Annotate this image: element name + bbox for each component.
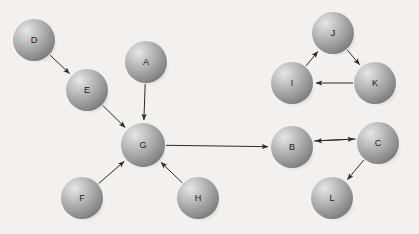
- node-sphere-b[interactable]: [271, 126, 313, 168]
- nodes-layer: DAEGFHJIKBCL: [13, 12, 401, 222]
- node-sphere-d[interactable]: [13, 19, 55, 61]
- edge-i-to-j: [306, 52, 318, 66]
- edge-g-to-b: [166, 145, 268, 146]
- node-k[interactable]: K: [354, 62, 398, 107]
- edge-e-to-g: [103, 105, 125, 127]
- node-l[interactable]: L: [311, 177, 355, 222]
- edges-layer: [50, 50, 364, 184]
- node-sphere-k[interactable]: [354, 62, 396, 104]
- node-g[interactable]: G: [121, 123, 167, 170]
- node-sphere-e[interactable]: [66, 69, 108, 111]
- node-sphere-g[interactable]: [121, 123, 165, 167]
- node-a[interactable]: A: [125, 41, 169, 86]
- edge-d-to-e: [50, 55, 70, 73]
- edge-c-to-b: [316, 139, 356, 141]
- node-i[interactable]: I: [271, 62, 315, 107]
- node-d[interactable]: D: [13, 19, 57, 64]
- node-e[interactable]: E: [66, 69, 110, 114]
- node-sphere-f[interactable]: [61, 177, 103, 219]
- node-sphere-c[interactable]: [357, 122, 399, 164]
- node-sphere-j[interactable]: [312, 12, 354, 54]
- node-h[interactable]: H: [177, 177, 221, 222]
- graph-svg: DAEGFHJIKBCL: [0, 0, 419, 234]
- edge-c-to-l: [347, 160, 363, 180]
- node-j[interactable]: J: [312, 12, 356, 57]
- node-sphere-l[interactable]: [311, 177, 353, 219]
- edge-h-to-g: [161, 162, 182, 182]
- node-b[interactable]: B: [271, 126, 315, 171]
- node-sphere-i[interactable]: [271, 62, 313, 104]
- node-sphere-h[interactable]: [177, 177, 219, 219]
- diagram-canvas: DAEGFHJIKBCL: [0, 0, 419, 234]
- edge-a-to-g: [144, 84, 145, 120]
- edge-f-to-g: [99, 161, 125, 183]
- node-sphere-a[interactable]: [125, 41, 167, 83]
